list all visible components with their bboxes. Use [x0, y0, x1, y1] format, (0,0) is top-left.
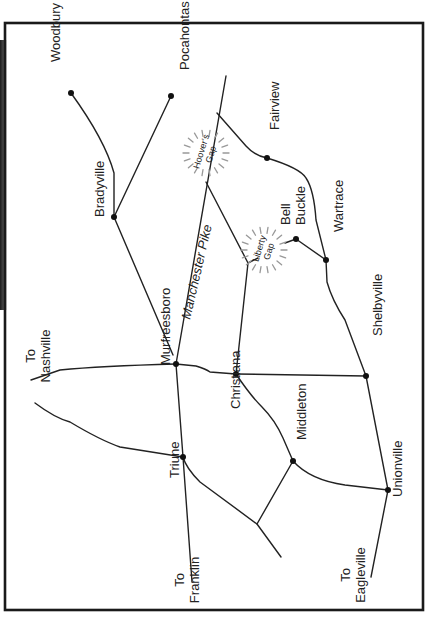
road-christiana-shelbyville — [236, 374, 366, 376]
road-unionville-eagleville — [371, 490, 388, 577]
woodbury-label: Woodbury — [48, 2, 63, 62]
bradyville-label: Bradyville — [92, 161, 107, 217]
triune-label: Triune — [167, 442, 182, 478]
wartrace-dot-icon — [323, 257, 329, 263]
road-to-nashville-road-b — [35, 403, 183, 457]
murfreesboro-dot-icon — [173, 361, 179, 367]
pocahontas-label: Pocahontas — [177, 1, 192, 70]
bradyville-dot-icon — [111, 214, 117, 220]
towns-layer — [68, 90, 391, 493]
bell-buckle-label: BellBuckle — [278, 186, 308, 225]
fairview-dot-icon — [264, 155, 270, 161]
road-christiana-middleton — [236, 374, 293, 461]
to-nashville-label: ToNashville — [23, 330, 53, 383]
christiana-label: Christiana — [228, 350, 243, 409]
woodbury-dot-icon — [68, 90, 74, 96]
shelbyville-label: Shelbyville — [370, 274, 385, 336]
to-franklin-label: ToFranklin — [172, 557, 202, 603]
bell-buckle-dot-icon — [293, 236, 299, 242]
liberty-gap-label: LibertyGap — [250, 234, 277, 266]
murfreesboro-label: Murfreesboro — [158, 288, 173, 365]
road-libgap-bellbuckle — [285, 239, 326, 260]
to-eagleville-label: ToEagleville — [338, 547, 368, 603]
road-murfreesboro-christiana — [176, 364, 236, 374]
road-shelbyville-unionville — [366, 376, 388, 490]
manchester-pike-label: Manchester Pike — [178, 223, 214, 321]
shelbyville-dot-icon — [363, 373, 369, 379]
wartrace-label: Wartrace — [331, 180, 346, 232]
hoovers-gap-label: Hoover'sGap — [191, 133, 221, 173]
road-middleton-junction — [257, 461, 293, 524]
pocahontas-dot-icon — [168, 93, 174, 99]
map-canvas: Hoover'sGapLibertyGap WoodburyPocahontas… — [0, 0, 438, 621]
middleton-dot-icon — [290, 458, 296, 464]
labels-layer: WoodburyPocahontasBradyvilleFairviewBell… — [23, 1, 405, 603]
road-hoovers-fairview-wartrace — [217, 113, 326, 260]
road-pocahontas-bradyville — [114, 96, 171, 217]
map-frame — [5, 23, 423, 610]
middleton-label: Middleton — [294, 384, 309, 440]
road-wartrace-shelbyville — [326, 260, 366, 376]
unionville-label: Unionville — [390, 441, 405, 497]
road-hoovers-liberty — [206, 182, 258, 263]
road-middleton-unionville — [293, 461, 388, 490]
fairview-label: Fairview — [267, 81, 282, 130]
hoovers-gap-marker: Hoover'sGap — [183, 130, 229, 175]
